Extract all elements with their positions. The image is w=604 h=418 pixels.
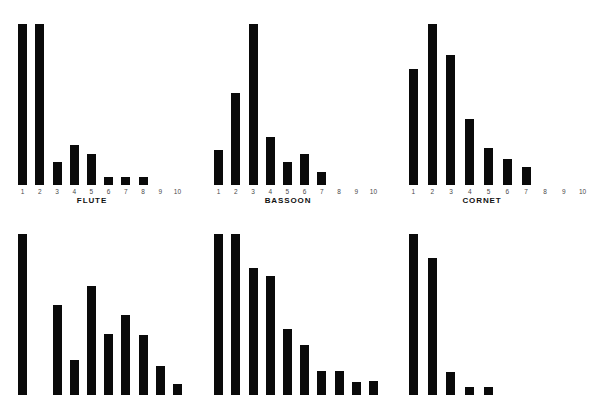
bar xyxy=(369,381,378,395)
plot-area-bassoon xyxy=(210,24,382,185)
bar-slot xyxy=(573,234,592,395)
bar-slot xyxy=(210,234,227,395)
bar-slot xyxy=(83,24,100,185)
bar-slot xyxy=(554,24,573,185)
bar-slot xyxy=(460,24,479,185)
bar xyxy=(428,24,437,185)
bar-slot xyxy=(31,24,48,185)
bar-slot xyxy=(48,234,65,395)
bar xyxy=(300,345,309,395)
chart-title-bassoon: BASSOON xyxy=(202,196,374,206)
bar-slot xyxy=(134,234,151,395)
bar-slot xyxy=(134,24,151,185)
bar-slot xyxy=(330,24,347,185)
bar-slot xyxy=(404,24,423,185)
bar-slot xyxy=(66,234,83,395)
bar-slot xyxy=(227,234,244,395)
plot-area-tuba xyxy=(404,234,592,395)
bar-slot xyxy=(279,24,296,185)
bar-slot xyxy=(169,234,186,395)
bar xyxy=(465,119,474,185)
bar-slot xyxy=(66,24,83,185)
bar-slot xyxy=(423,234,442,395)
bar-slot xyxy=(536,234,555,395)
bar xyxy=(35,24,44,185)
chart-trumpet: 1 2 3 4 5 6 7 8 9 10 TRUMPET xyxy=(196,209,392,418)
bar xyxy=(121,315,130,396)
chart-tuba: 1 2 3 4 5 6 7 8 9 10 TUBA xyxy=(392,209,604,418)
bar-slot xyxy=(31,234,48,395)
bar xyxy=(300,154,309,185)
plot-area-cornet xyxy=(404,24,592,185)
bar-slot xyxy=(498,234,517,395)
bar-slot xyxy=(479,24,498,185)
bar xyxy=(352,382,361,395)
chart-grid: 1 2 3 4 5 6 7 8 9 10 FLUTE xyxy=(0,0,604,418)
bar xyxy=(53,162,62,185)
bar-slot xyxy=(100,24,117,185)
chart-flute: 1 2 3 4 5 6 7 8 9 10 FLUTE xyxy=(0,0,196,209)
bar xyxy=(173,384,182,395)
bar-slot xyxy=(279,234,296,395)
bar-slot xyxy=(169,24,186,185)
bar-slot xyxy=(296,234,313,395)
bar xyxy=(283,162,292,185)
bar-slot xyxy=(48,24,65,185)
bar xyxy=(104,334,113,395)
bar xyxy=(484,148,493,185)
bar xyxy=(70,360,79,395)
bar xyxy=(156,366,165,395)
chart-title-flute: FLUTE xyxy=(6,196,178,206)
bar xyxy=(18,24,27,185)
bar-slot xyxy=(442,24,461,185)
bar-slot xyxy=(313,234,330,395)
bar xyxy=(121,177,130,185)
bar xyxy=(283,329,292,395)
bar-slot xyxy=(348,234,365,395)
bar xyxy=(484,387,493,395)
bar xyxy=(503,159,512,185)
bar-slot xyxy=(152,234,169,395)
bar xyxy=(428,258,437,395)
bar xyxy=(446,372,455,395)
chart-clarinet: 1 2 3 4 5 6 7 8 9 10 CLARINET xyxy=(0,209,196,418)
bar-slot xyxy=(573,24,592,185)
bar-slot xyxy=(517,234,536,395)
bar xyxy=(409,69,418,185)
bar-slot xyxy=(313,24,330,185)
bar xyxy=(214,234,223,395)
bar-slot xyxy=(348,24,365,185)
bar-slot xyxy=(262,234,279,395)
harmonic-spectra-figure: 1 2 3 4 5 6 7 8 9 10 FLUTE xyxy=(0,0,604,418)
bar-slot xyxy=(404,234,423,395)
bar-slot xyxy=(83,234,100,395)
bar xyxy=(231,93,240,185)
bar-slot xyxy=(423,24,442,185)
bar xyxy=(266,137,275,185)
bar-slot xyxy=(152,24,169,185)
bar-slot xyxy=(460,234,479,395)
plot-area-trumpet xyxy=(210,234,382,395)
bar xyxy=(249,24,258,185)
bar xyxy=(214,150,223,185)
bar xyxy=(249,268,258,395)
bar-slot xyxy=(365,24,382,185)
bar xyxy=(335,371,344,395)
bar-slot xyxy=(244,234,261,395)
bar-slot xyxy=(244,24,261,185)
bar xyxy=(317,172,326,185)
bar xyxy=(18,234,27,395)
chart-title-cornet: CORNET xyxy=(388,196,576,206)
bar xyxy=(139,177,148,185)
plot-area-clarinet xyxy=(14,234,186,395)
bar-slot xyxy=(100,234,117,395)
bar xyxy=(522,167,531,185)
bar-slot xyxy=(479,234,498,395)
bar xyxy=(266,276,275,395)
bar-slot xyxy=(536,24,555,185)
bar xyxy=(446,55,455,185)
bar-slot xyxy=(14,24,31,185)
bar-slot xyxy=(210,24,227,185)
bar xyxy=(70,145,79,185)
bar xyxy=(104,177,113,185)
